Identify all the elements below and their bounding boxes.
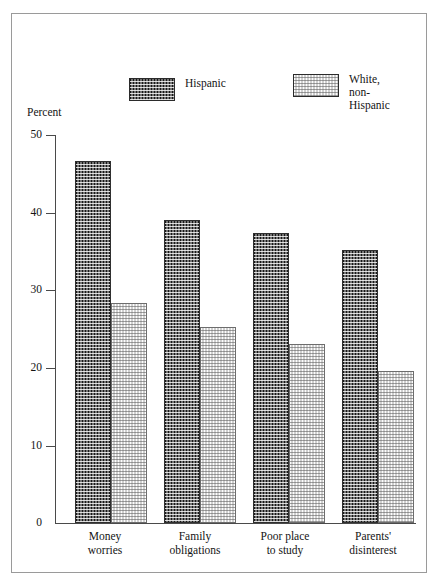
y-tick-40 — [46, 213, 56, 214]
y-tick-30 — [46, 290, 56, 291]
y-tick-label-40: 40 — [18, 206, 42, 218]
y-tick-10 — [46, 446, 56, 447]
y-tick-label-10: 10 — [18, 439, 42, 451]
bar-white-non-hispanic-family-obligations — [200, 327, 236, 523]
y-tick-label-20: 20 — [18, 361, 42, 373]
category-label-parents-disinterest: Parents' disinterest — [313, 530, 433, 557]
y-axis-title: Percent — [27, 106, 61, 118]
bar-white-non-hispanic-money-worries — [111, 303, 147, 523]
y-tick-50 — [46, 135, 56, 136]
y-tick-label-30: 30 — [18, 283, 42, 295]
bar-hispanic-poor-place-to-study — [253, 233, 289, 523]
chart-page: Hispanic White, non-Hispanic Percent 50 … — [0, 0, 438, 586]
bar-white-non-hispanic-poor-place-to-study — [289, 344, 325, 523]
bar-hispanic-family-obligations — [164, 220, 200, 523]
y-tick-20 — [46, 368, 56, 369]
bar-white-non-hispanic-parents-disinterest — [378, 371, 414, 523]
bar-hispanic-parents-disinterest — [342, 250, 378, 523]
y-tick-label-0: 0 — [18, 516, 42, 528]
bar-hispanic-money-worries — [75, 161, 111, 523]
y-tick-label-50: 50 — [18, 128, 42, 140]
x-axis-line — [55, 523, 416, 524]
y-axis-line — [55, 135, 56, 524]
plot-area: Percent 50 40 30 20 10 0 Money worri — [0, 0, 438, 586]
